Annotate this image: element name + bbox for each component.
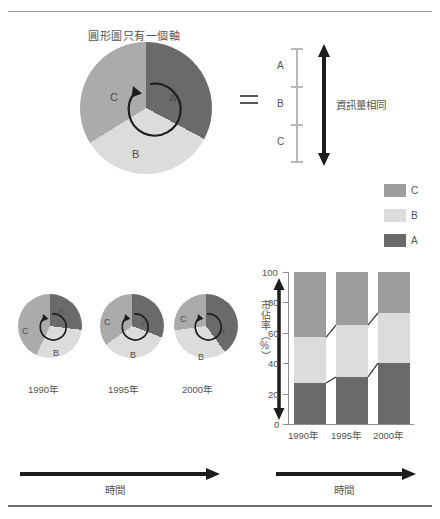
- figure-canvas: 圓形圖只有一個軸 A B C A B C 資訊量相同 C B A: [0, 0, 440, 519]
- small-pie-1990-year-label: 1990年: [28, 382, 59, 396]
- top-divider-rule: [8, 11, 432, 12]
- y-tick-0: [283, 424, 289, 425]
- axis-segment-label-b: B: [277, 98, 284, 109]
- main-pie-slice-label-b: B: [132, 148, 139, 160]
- small-pie-1990-label-a: A: [58, 306, 64, 316]
- legend-item-c: C: [384, 184, 418, 197]
- y-tick-label-40: 40: [268, 358, 279, 369]
- main-pie-chart: [80, 42, 212, 174]
- axis-segment-label-a: A: [277, 60, 284, 71]
- legend-label-b: B: [411, 210, 418, 221]
- small-pie-1990-label-b: B: [53, 348, 59, 358]
- legend-item-b: B: [384, 209, 418, 222]
- y-tick-label-60: 60: [268, 328, 279, 339]
- time-arrow-left-label: 時間: [105, 482, 125, 497]
- information-equal-label: 資訊量相同: [336, 97, 386, 112]
- bar-x-label-1990: 1990年: [288, 428, 319, 442]
- small-pie-2000: [174, 294, 238, 358]
- axis-tick-ab: [291, 86, 303, 88]
- y-tick-label-100: 100: [262, 267, 278, 278]
- time-arrow-left-icon: [20, 468, 220, 480]
- bar-x-label-2000: 2000年: [373, 428, 404, 442]
- small-pie-2000-year-label: 2000年: [182, 382, 213, 396]
- small-pie-2000-label-c: C: [180, 314, 187, 324]
- small-pie-1995-label-a: A: [142, 318, 148, 328]
- y-tick-label-20: 20: [268, 389, 279, 400]
- axis-tick-bc: [291, 124, 303, 126]
- main-pie-slice-label-a: A: [169, 92, 176, 104]
- bar-chart-x-axis: [288, 424, 414, 425]
- bar-boundary-connectors: [288, 272, 418, 424]
- legend-item-a: A: [384, 234, 418, 247]
- y-tick-label-80: 80: [268, 297, 279, 308]
- legend-label-c: C: [411, 185, 418, 196]
- legend: C B A: [384, 184, 418, 259]
- small-pie-2000-label-a: A: [219, 327, 225, 337]
- time-arrow-right-icon: [276, 468, 416, 480]
- legend-label-a: A: [411, 235, 418, 246]
- legend-swatch-c: [384, 184, 406, 197]
- bottom-divider-rule: [8, 505, 432, 507]
- legend-swatch-a: [384, 234, 406, 247]
- information-equal-double-arrow-icon: [316, 44, 332, 166]
- small-pie-1995-label-c: C: [104, 317, 111, 327]
- small-pie-1995-year-label: 1995年: [108, 382, 139, 396]
- main-pie-slice-label-c: C: [110, 91, 118, 103]
- small-pie-1990-label-c: C: [22, 326, 29, 336]
- axis-tick-top: [291, 48, 303, 50]
- bar-x-label-1995: 1995年: [331, 428, 362, 442]
- axis-tick-bottom: [291, 161, 303, 163]
- legend-swatch-b: [384, 209, 406, 222]
- figure-title: 圓形圖只有一個軸: [88, 27, 180, 43]
- small-pie-1995-label-b: B: [130, 350, 136, 360]
- equals-symbol: [240, 95, 258, 104]
- vertical-axis-line: [296, 48, 298, 162]
- axis-segment-label-c: C: [277, 136, 284, 147]
- small-pie-2000-label-b: B: [198, 352, 204, 362]
- time-arrow-right-label: 時間: [334, 482, 354, 497]
- y-tick-label-0: 0: [274, 419, 279, 430]
